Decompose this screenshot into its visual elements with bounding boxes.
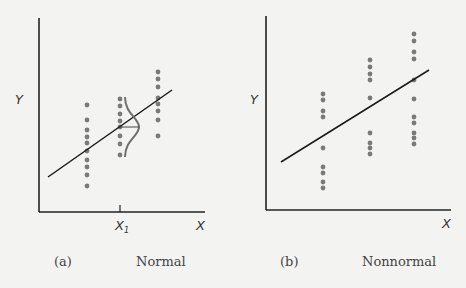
data-point [321,92,326,97]
data-point [368,58,373,63]
data-point [412,50,417,55]
data-point [321,109,326,114]
data-point [85,128,90,133]
data-point [321,180,326,185]
data-point [368,131,373,136]
panel-tag: (a) [54,254,72,269]
data-point [368,65,373,70]
data-point [368,72,373,77]
data-point [156,109,161,114]
data-point [412,121,417,126]
data-point [118,142,123,147]
data-point [321,98,326,103]
data-point [85,173,90,178]
data-point [85,103,90,108]
data-point [412,32,417,37]
data-point [368,152,373,157]
data-point [368,141,373,146]
data-point [321,171,326,176]
normal-distribution-curve [120,97,139,157]
data-point [156,77,161,82]
panel-tag: (b) [280,254,298,269]
panel-a-normal: Y X1 X (a) Normal [15,18,206,269]
data-point [118,134,123,139]
data-point [321,165,326,170]
data-point [412,131,417,136]
data-point [85,165,90,170]
data-point [156,102,161,107]
panel-b-nonnormal: Y X (b) Nonnormal [250,16,452,269]
data-point [156,118,161,123]
data-point [412,115,417,120]
data-point [118,119,123,124]
data-point [118,104,123,109]
data-point [368,146,373,151]
data-point [412,97,417,102]
data-point [321,115,326,120]
y-axis-label: Y [250,92,259,107]
data-point [412,57,417,62]
data-point [118,153,123,158]
data-point [156,85,161,90]
figure: Y X1 X (a) Normal Y X (b) Nonnormal [0,0,466,288]
data-point [368,96,373,101]
panel-caption: Normal [136,254,186,269]
data-point [156,134,161,139]
data-point [368,78,373,83]
regression-line [48,90,172,177]
data-point [321,186,326,191]
data-point [85,158,90,163]
data-point [321,146,326,151]
data-point [118,97,123,102]
data-point [85,118,90,123]
data-point [85,135,90,140]
data-point [85,141,90,146]
data-points [85,70,161,189]
x1-tick-label: X1 [114,218,129,235]
y-axis-label: Y [15,92,24,107]
panel-caption: Nonnormal [362,254,436,269]
x-axis-label: X [195,218,206,233]
data-point [412,136,417,141]
data-point [85,184,90,189]
data-point [412,142,417,147]
data-point [412,39,417,44]
data-point [156,70,161,75]
data-point [118,112,123,117]
regression-line [281,70,429,162]
x-axis-label: X [441,216,452,231]
data-points [321,32,417,191]
